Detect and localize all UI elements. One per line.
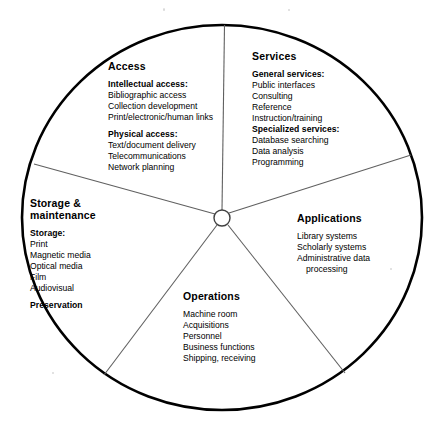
sector-access: Access Intellectual access: Bibliographi…	[108, 60, 213, 173]
sector-services-item: Reference	[252, 102, 340, 113]
sector-operations-item: Personnel	[183, 331, 256, 342]
sector-access-item: Text/document delivery	[108, 140, 213, 151]
sector-storage-item: Audiovisual	[30, 283, 96, 294]
sector-applications-item: Scholarly systems	[297, 242, 370, 253]
sector-services-title: Services	[252, 50, 340, 62]
sector-services-group-0-heading: General services:	[252, 69, 340, 80]
sector-services-item: Instruction/training	[252, 113, 340, 124]
sector-applications-item: Administrative data	[297, 253, 370, 264]
sector-services-group-1-heading: Specialized services:	[252, 124, 340, 135]
sector-access-item: Bibliographic access	[108, 90, 213, 101]
scan-speckle	[288, 9, 290, 11]
sector-services-item: Data analysis	[252, 146, 340, 157]
hub-circle	[214, 210, 230, 226]
sector-access-item: Print/electronic/human links	[108, 112, 213, 123]
sector-services-item: Programming	[252, 157, 340, 168]
scan-speckle	[52, 372, 54, 374]
sector-access-item: Collection development	[108, 101, 213, 112]
sector-applications-item: Library systems	[297, 231, 370, 242]
scan-speckle	[163, 8, 165, 11]
sector-storage-item: Print	[30, 239, 96, 250]
sector-applications-title: Applications	[297, 212, 370, 224]
sector-access-group-1-heading: Physical access:	[108, 129, 213, 140]
sector-access-group-0-heading: Intellectual access:	[108, 79, 213, 90]
sector-applications-item: processing	[297, 264, 370, 275]
sector-storage-maintenance: Storage & maintenance Storage: Print Mag…	[30, 197, 96, 311]
sector-operations-item: Shipping, receiving	[183, 353, 256, 364]
sector-operations-item: Machine room	[183, 309, 256, 320]
scan-speckle	[390, 268, 392, 270]
sector-storage-title-line2: maintenance	[30, 209, 96, 221]
sector-access-title: Access	[108, 60, 213, 72]
sector-applications: Applications Library systems Scholarly s…	[297, 212, 370, 275]
sector-storage-group-1-heading: Preservation	[30, 300, 96, 311]
sector-operations: Operations Machine room Acquisitions Per…	[183, 290, 256, 364]
sector-storage-title-line1: Storage &	[30, 197, 81, 209]
sector-operations-item: Business functions	[183, 342, 256, 353]
sector-storage-title: Storage & maintenance	[30, 197, 96, 221]
sector-operations-title: Operations	[183, 290, 256, 302]
sector-operations-item: Acquisitions	[183, 320, 256, 331]
sector-services-item: Database searching	[252, 135, 340, 146]
sector-access-item: Telecommunications	[108, 151, 213, 162]
spoke-top	[222, 25, 225, 210]
sector-services-item: Consulting	[252, 91, 340, 102]
sector-storage-item: Optical media	[30, 261, 96, 272]
sector-storage-item: Film	[30, 272, 96, 283]
sector-storage-item: Magnetic media	[30, 250, 96, 261]
sector-access-item: Network planning	[108, 162, 213, 173]
diagram-canvas: Access Intellectual access: Bibliographi…	[0, 0, 442, 432]
sector-services: Services General services: Public interf…	[252, 50, 340, 168]
sector-storage-group-0-heading: Storage:	[30, 228, 96, 239]
sector-services-item: Public interfaces	[252, 80, 340, 91]
